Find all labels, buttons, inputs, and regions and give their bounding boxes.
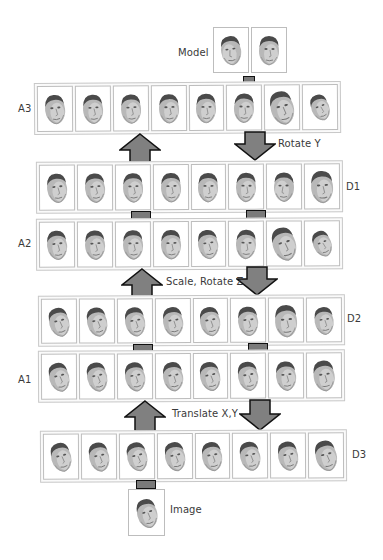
face-icon: [233, 300, 263, 341]
face-icon: [271, 355, 301, 396]
face-icon: [119, 355, 151, 397]
face-icon: [78, 89, 107, 129]
arrow-down-icon: [239, 399, 281, 431]
frame: [302, 84, 338, 130]
face-icon: [157, 355, 188, 396]
face-icon: [119, 435, 154, 478]
row-d1: [36, 160, 343, 214]
face-icon: [157, 225, 185, 264]
arrow-up-icon: [121, 268, 163, 298]
face-icon: [44, 435, 79, 478]
row-label-a3: A3: [18, 103, 31, 114]
face-icon: [129, 491, 163, 534]
frame: [113, 85, 149, 131]
frame: [228, 221, 264, 267]
image-frame: [128, 489, 165, 536]
face-icon: [80, 355, 113, 398]
face-icon: [193, 223, 224, 264]
frame: [155, 298, 191, 343]
frame: [304, 163, 340, 209]
arrow-down-icon: [234, 131, 276, 161]
frame: [266, 220, 302, 266]
row-d3: [40, 429, 347, 483]
frame: [194, 433, 230, 479]
face-icon: [155, 89, 183, 128]
face-icon: [42, 300, 77, 343]
frame: [157, 433, 193, 479]
face-icon: [262, 82, 302, 132]
face-icon: [40, 89, 70, 130]
face-icon: [194, 299, 226, 341]
row-label-a1: A1: [18, 374, 31, 385]
row-label-d1: D1: [346, 181, 360, 192]
face-icon: [119, 300, 151, 342]
frame: [115, 164, 151, 210]
face-icon: [272, 434, 304, 476]
face-icon: [158, 435, 191, 478]
frame: [119, 433, 155, 479]
frame: [75, 86, 111, 132]
frame: [192, 298, 228, 343]
frame: [115, 221, 151, 267]
frame: [188, 85, 224, 131]
face-icon: [82, 435, 115, 478]
frame: [37, 86, 73, 132]
row-label-a2: A2: [18, 238, 31, 249]
frame: [190, 221, 226, 267]
frame: [230, 298, 266, 343]
face-icon: [157, 300, 188, 341]
frame: [268, 297, 304, 342]
row-d2: [38, 294, 345, 347]
frame: [264, 84, 300, 130]
frame: [268, 352, 304, 398]
frame: [232, 433, 268, 479]
model-label: Model: [178, 47, 209, 58]
frame: [117, 298, 153, 343]
face-icon: [80, 167, 109, 207]
face-icon: [233, 224, 260, 263]
frame: [41, 354, 77, 400]
row-a1: [38, 349, 345, 403]
face-icon: [308, 433, 344, 478]
frame: [41, 299, 77, 344]
frame: [192, 353, 228, 399]
frame: [153, 164, 189, 210]
arrow-up-icon: [119, 133, 161, 163]
face-icon: [42, 224, 72, 265]
face-icon: [194, 355, 227, 398]
frame: [43, 434, 79, 480]
frame: [117, 353, 153, 399]
model-frame-1: [213, 27, 249, 73]
frame: [77, 164, 113, 210]
frame: [77, 221, 113, 267]
frame: [306, 352, 342, 398]
face-icon: [264, 218, 305, 268]
frame: [304, 220, 340, 266]
face-icon: [196, 435, 228, 477]
face-icon: [42, 355, 77, 398]
frame: [230, 353, 266, 399]
face-icon: [42, 167, 72, 208]
face-icon: [305, 223, 340, 264]
row-label-d3: D3: [352, 449, 366, 460]
arrow-up-icon: [124, 400, 166, 432]
face-icon: [306, 164, 338, 208]
frame: [150, 85, 186, 131]
model-frame-2: [251, 27, 287, 73]
face-icon: [234, 434, 267, 477]
face-icon: [119, 168, 147, 207]
face-icon: [119, 225, 147, 264]
face-icon: [80, 300, 113, 343]
face-icon: [117, 89, 145, 128]
face-icon: [271, 167, 297, 205]
frame: [190, 164, 226, 210]
face-icon: [233, 168, 259, 206]
face-icon: [303, 87, 337, 127]
transform-label-translate-xy: Translate X,Y: [172, 408, 238, 419]
row-a2: [36, 217, 343, 271]
connector-d3-image: [136, 480, 156, 489]
frame: [306, 297, 342, 342]
frame: [81, 433, 117, 479]
frame: [153, 221, 189, 267]
row-label-d2: D2: [347, 313, 361, 324]
